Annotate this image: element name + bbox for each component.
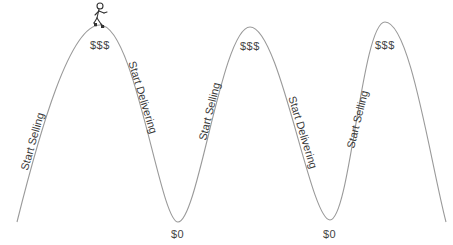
sales-cycle-wave [0, 0, 453, 245]
stick-figure-icon [94, 3, 107, 28]
wave-curve [17, 22, 446, 222]
trough-label-1: $0 [171, 229, 184, 240]
trough-label-2: $0 [323, 229, 336, 240]
peak-label-1: $$$ [90, 40, 110, 51]
peak-label-2: $$$ [240, 41, 260, 52]
peak-label-3: $$$ [375, 40, 395, 51]
